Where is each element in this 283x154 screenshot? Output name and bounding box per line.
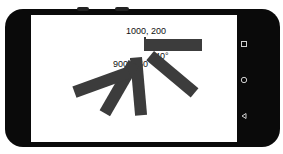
origin-point-label: 1000, 200	[126, 27, 166, 36]
home-button[interactable]	[240, 76, 248, 84]
circle-icon	[240, 76, 248, 84]
volume-button	[77, 7, 89, 11]
square-icon	[240, 40, 248, 48]
power-button	[115, 7, 129, 11]
triangle-back-icon	[240, 112, 248, 120]
rotated-bar-0deg	[144, 39, 202, 51]
back-button[interactable]	[240, 112, 248, 120]
app-screen: 1000, 200 40° 900, 360	[31, 15, 237, 142]
rotated-bar-40deg	[146, 51, 198, 97]
recents-button[interactable]	[240, 40, 248, 48]
